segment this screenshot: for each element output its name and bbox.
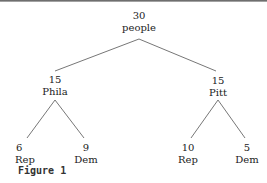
node-count: 6	[15, 142, 35, 154]
node-count: 30	[122, 10, 156, 22]
node-count: 9	[74, 142, 97, 154]
figure-caption: Figure 1	[18, 165, 66, 176]
node-label: Rep	[178, 154, 198, 166]
node-count: 10	[178, 142, 198, 154]
edge-root-pitt	[139, 39, 216, 71]
node-label: people	[122, 22, 156, 34]
edge-phila-rep	[27, 100, 55, 138]
node-label: Dem	[74, 154, 97, 166]
node-pitt: 15 Pitt	[209, 75, 227, 99]
node-count: 15	[42, 74, 68, 86]
edge-root-phila	[55, 39, 139, 71]
node-root: 30 people	[122, 10, 156, 34]
edge-pitt-dem	[218, 100, 245, 138]
node-label: Phila	[42, 86, 68, 98]
node-pitt-dem: 5 Dem	[235, 142, 258, 166]
node-pitt-rep: 10 Rep	[178, 142, 198, 166]
node-phila-dem: 9 Dem	[74, 142, 97, 166]
node-count: 15	[209, 75, 227, 87]
edge-phila-dem	[55, 100, 84, 138]
edge-pitt-rep	[191, 100, 218, 138]
node-phila-rep: 6 Rep	[15, 142, 35, 166]
node-phila: 15 Phila	[42, 74, 68, 98]
node-count: 5	[235, 142, 258, 154]
node-label: Dem	[235, 154, 258, 166]
node-label: Pitt	[209, 87, 227, 99]
